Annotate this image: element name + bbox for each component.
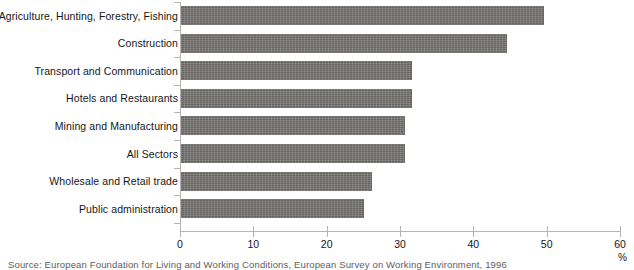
- bar-row: Public administration: [0, 199, 634, 218]
- bar: [181, 89, 412, 108]
- y-axis-tick: [174, 30, 181, 31]
- x-axis-tick-label: 60: [614, 238, 626, 250]
- bar-row: All Sectors: [0, 144, 634, 163]
- y-axis-tick: [174, 112, 181, 113]
- x-axis-tick: [253, 226, 254, 237]
- category-label: Agriculture, Hunting, Forestry, Fishing: [0, 10, 178, 22]
- bar: [181, 61, 412, 80]
- bar: [181, 6, 544, 25]
- y-axis-tick: [174, 2, 181, 3]
- x-axis-tick: [620, 226, 621, 237]
- x-axis-unit-label: %: [618, 252, 627, 263]
- x-axis-tick: [180, 226, 181, 237]
- x-axis-tick-label: 40: [467, 238, 479, 250]
- bar-row: Construction: [0, 34, 634, 53]
- bar-row: Hotels and Restaurants: [0, 89, 634, 108]
- y-axis-tick: [174, 223, 181, 224]
- bar-track: [181, 199, 364, 218]
- bar-track: [181, 89, 412, 108]
- y-axis-tick: [174, 195, 181, 196]
- bar-row: Agriculture, Hunting, Forestry, Fishing: [0, 6, 634, 25]
- y-axis-tick: [174, 140, 181, 141]
- category-label: Construction: [118, 37, 178, 49]
- x-axis-tick-label: 50: [541, 238, 553, 250]
- bar: [181, 172, 372, 191]
- category-label: All Sectors: [127, 148, 178, 160]
- bar: [181, 116, 405, 135]
- x-axis-tick: [400, 226, 401, 237]
- bar: [181, 199, 364, 218]
- x-axis-tick: [547, 226, 548, 237]
- x-axis-tick-label: 0: [177, 238, 183, 250]
- bar-row: Transport and Communication: [0, 61, 634, 80]
- bar: [181, 34, 507, 53]
- x-axis-tick: [473, 226, 474, 237]
- y-axis-tick: [174, 85, 181, 86]
- x-axis-tick-label: 20: [321, 238, 333, 250]
- bar-track: [181, 172, 372, 191]
- source-note: Source: European Foundation for Living a…: [8, 259, 507, 270]
- category-label: Wholesale and Retail trade: [49, 175, 178, 187]
- category-label: Hotels and Restaurants: [66, 92, 178, 104]
- y-axis-tick: [174, 57, 181, 58]
- category-label: Transport and Communication: [34, 65, 178, 77]
- plot-area: Agriculture, Hunting, Forestry, FishingC…: [0, 0, 634, 232]
- bar-track: [181, 6, 544, 25]
- bar-track: [181, 34, 507, 53]
- bar: [181, 144, 405, 163]
- bar-track: [181, 116, 405, 135]
- category-label: Mining and Manufacturing: [55, 120, 178, 132]
- bar-row: Wholesale and Retail trade: [0, 172, 634, 191]
- y-axis-tick: [174, 168, 181, 169]
- bar-track: [181, 144, 405, 163]
- bar-row: Mining and Manufacturing: [0, 116, 634, 135]
- x-axis-tick-label: 10: [247, 238, 259, 250]
- bar-track: [181, 61, 412, 80]
- category-label: Public administration: [79, 203, 178, 215]
- x-axis-tick: [327, 226, 328, 237]
- x-axis-tick-label: 30: [394, 238, 406, 250]
